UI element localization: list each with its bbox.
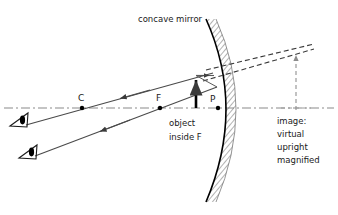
observer-eye-upper (10, 113, 28, 127)
ray-diagram-figure: concave mirror C F P object inside F ima… (0, 0, 338, 215)
object-label-line2: inside F (169, 132, 202, 142)
point-f-marker (158, 106, 162, 110)
diagram-canvas: concave mirror C F P object inside F ima… (0, 0, 338, 215)
image-label-line2: virtual (277, 129, 304, 139)
point-p-marker (216, 106, 220, 110)
incident-ray-to-pole (196, 76, 217, 88)
observer-eye-lower (19, 145, 37, 159)
mirror-title-label: concave mirror (138, 14, 203, 24)
image-arrow (281, 55, 311, 110)
point-c-marker (80, 106, 84, 110)
image-label-line4: magnified (277, 155, 320, 165)
reflected-ray-from-pole-arrow (100, 120, 130, 132)
reflected-ray-through-f-arrow (120, 90, 150, 99)
image-label-line3: upright (277, 142, 308, 152)
concave-mirror (206, 19, 236, 202)
point-c-label: C (78, 93, 84, 103)
point-f-label: F (156, 93, 161, 103)
point-p-label: P (210, 94, 216, 104)
object-label-line1: object (169, 118, 196, 128)
image-label-line1: image: (277, 116, 306, 126)
light-rays (26, 73, 217, 156)
